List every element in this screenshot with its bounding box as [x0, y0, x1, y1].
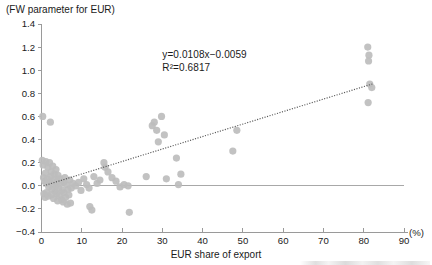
data-point [90, 173, 97, 180]
data-point [365, 99, 372, 106]
trend-line [44, 83, 374, 185]
data-point [47, 119, 54, 126]
x-tick-label: 70 [318, 235, 329, 246]
y-axis: −0.4−0.20.00.20.40.60.81.01.21.4 [16, 18, 41, 237]
x-tick-label: 80 [358, 235, 369, 246]
y-tick-label: −0.4 [16, 226, 36, 237]
y-tick-label: 0.2 [22, 157, 35, 168]
y-tick-label: 0.8 [22, 88, 35, 99]
x-axis-title: EUR share of export [171, 249, 262, 260]
data-point [126, 209, 133, 216]
y-tick-label: −0.2 [16, 203, 35, 214]
x-tick-label: 40 [197, 235, 208, 246]
data-point [163, 175, 170, 182]
x-axis: 0102030405060708090 [39, 228, 410, 246]
y-tick-label: 0.4 [22, 134, 36, 145]
data-point [175, 181, 182, 188]
data-point [88, 206, 95, 213]
data-point [143, 173, 150, 180]
y-tick-label: 1.2 [22, 42, 35, 53]
plot-title: (FW parameter for EUR) [6, 4, 115, 15]
data-point [173, 154, 180, 161]
data-point [161, 131, 168, 138]
x-tick-label: 0 [39, 235, 44, 246]
x-tick-label: 60 [278, 235, 289, 246]
data-point [151, 119, 158, 126]
data-point [153, 127, 160, 134]
x-tick-label: 90 [399, 235, 410, 246]
data-point [155, 138, 162, 145]
regression-equation-label: y=0.0108x−0.0059 [162, 49, 247, 60]
y-tick-label: 0.0 [22, 180, 35, 191]
x-axis-unit-label: (%) [409, 227, 424, 238]
x-tick-label: 30 [157, 235, 168, 246]
chart-figure: (FW parameter for EUR) −0.4−0.20.00.20.4… [0, 0, 432, 265]
data-point [67, 200, 74, 207]
data-point [177, 171, 184, 178]
data-point [125, 182, 132, 189]
data-point [85, 184, 92, 191]
data-point [229, 148, 236, 155]
data-point [365, 57, 372, 64]
y-tick-label: 0.6 [22, 111, 35, 122]
r-squared-label: R²=0.6817 [162, 62, 210, 73]
scatter-plot-svg: (FW parameter for EUR) −0.4−0.20.00.20.4… [0, 0, 432, 265]
data-point [364, 44, 371, 51]
data-point [65, 191, 72, 198]
data-point [39, 113, 46, 120]
data-point [158, 113, 165, 120]
x-tick-label: 20 [117, 235, 128, 246]
data-point [54, 197, 61, 204]
y-tick-label: 1.4 [22, 18, 36, 29]
data-point [77, 187, 84, 194]
data-point [233, 127, 240, 134]
x-tick-label: 10 [76, 235, 87, 246]
data-point [96, 176, 103, 183]
y-tick-label: 1.0 [22, 65, 35, 76]
x-tick-label: 50 [238, 235, 249, 246]
